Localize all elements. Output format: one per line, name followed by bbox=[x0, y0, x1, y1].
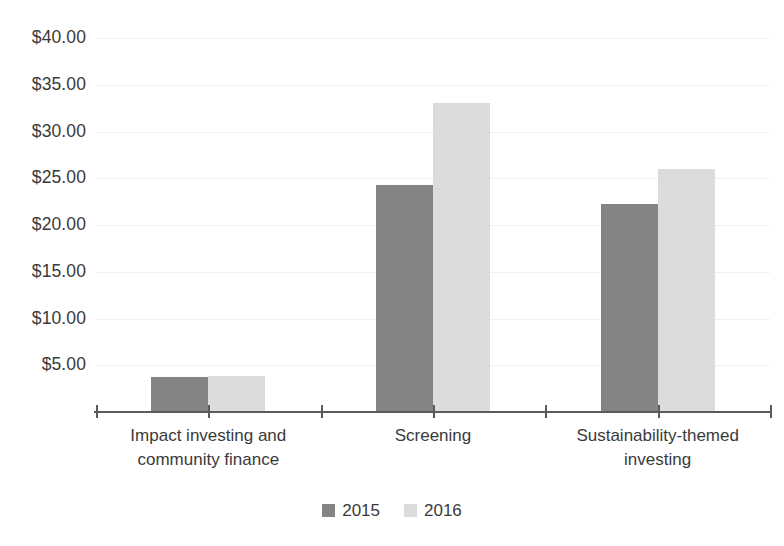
chart-legend: 2015 2016 bbox=[0, 502, 784, 519]
x-axis-tick bbox=[96, 405, 98, 418]
bar-2015-2 bbox=[376, 185, 433, 412]
bar-2016-2 bbox=[433, 103, 490, 412]
legend-item-2015[interactable]: 2015 bbox=[322, 502, 380, 519]
legend-swatch-2015-icon bbox=[322, 504, 335, 517]
legend-swatch-2016-icon bbox=[404, 504, 417, 517]
y-axis-tick-label: $40.00 bbox=[0, 29, 86, 47]
category-label-1: Impact investing andcommunity finance bbox=[96, 424, 321, 472]
x-axis-tick bbox=[770, 405, 772, 418]
y-axis-tick-label: $15.00 bbox=[0, 263, 86, 281]
category-label-2: Screening bbox=[321, 424, 546, 448]
bar-2015-3 bbox=[601, 204, 658, 412]
x-axis-tick bbox=[658, 405, 660, 418]
y-axis-tick-label: $35.00 bbox=[0, 76, 86, 94]
legend-label-2015: 2015 bbox=[342, 502, 380, 519]
bar-2015-1 bbox=[151, 377, 208, 412]
x-axis-tick bbox=[321, 405, 323, 418]
plot-area bbox=[96, 38, 770, 412]
bar-chart: $5.00$10.00$15.00$20.00$25.00$30.00$35.0… bbox=[0, 0, 784, 546]
category-label-line: Impact investing and bbox=[96, 424, 321, 448]
category-label-3: Sustainability-themedinvesting bbox=[545, 424, 770, 472]
legend-label-2016: 2016 bbox=[424, 502, 462, 519]
x-axis-tick bbox=[208, 405, 210, 418]
category-label-line: Sustainability-themed bbox=[545, 424, 770, 448]
category-label-line: community finance bbox=[96, 448, 321, 472]
category-label-line: investing bbox=[545, 448, 770, 472]
gridline bbox=[96, 85, 770, 86]
x-axis-tick bbox=[433, 405, 435, 418]
bar-2016-3 bbox=[658, 169, 715, 412]
y-axis-tick-label: $5.00 bbox=[0, 357, 86, 375]
x-axis-tick bbox=[545, 405, 547, 418]
bar-2016-1 bbox=[208, 376, 265, 412]
y-axis-tick-label: $30.00 bbox=[0, 123, 86, 141]
legend-item-2016[interactable]: 2016 bbox=[404, 502, 462, 519]
y-axis-tick-labels: $5.00$10.00$15.00$20.00$25.00$30.00$35.0… bbox=[0, 38, 86, 412]
y-axis-tick-label: $20.00 bbox=[0, 216, 86, 234]
y-axis-tick-label: $10.00 bbox=[0, 310, 86, 328]
category-label-line: Screening bbox=[321, 424, 546, 448]
gridline bbox=[96, 38, 770, 39]
y-axis-tick-label: $25.00 bbox=[0, 170, 86, 188]
x-axis-category-labels: Impact investing andcommunity financeScr… bbox=[96, 424, 770, 484]
